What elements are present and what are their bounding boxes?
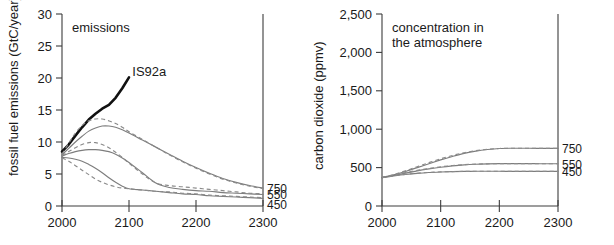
emissions-y-tick-label: 30 [38, 7, 52, 22]
concentration-y-tick-label: 0 [365, 199, 372, 214]
concentration-x-tick-label: 2300 [544, 215, 573, 230]
emissions-series-5 [62, 157, 263, 198]
concentration-x-tick-group: 2000210022002300 [368, 200, 573, 230]
emissions-series-1 [62, 126, 263, 188]
emissions-y-tick-label: 0 [45, 199, 52, 214]
concentration-chart-svg: carbon dioxide (ppmv) 05001,0001,5002,00… [307, 0, 614, 245]
concentration-y-tick-label: 1,500 [339, 83, 372, 98]
concentration-x-tick-label: 2200 [485, 215, 514, 230]
concentration-y-axis-title: carbon dioxide (ppmv) [311, 41, 326, 170]
emissions-chart-svg: fossil fuel emissions (GtC/year) 0510152… [0, 0, 307, 245]
chart-panel-emissions: fossil fuel emissions (GtC/year) 0510152… [0, 0, 307, 245]
concentration-edge-label-450: 450 [562, 165, 582, 179]
chart-panel-concentration: carbon dioxide (ppmv) 05001,0001,5002,00… [307, 0, 614, 245]
emissions-y-axis-title-group: fossil fuel emissions (GtC/year) [6, 0, 21, 176]
emissions-annotation-is92a: IS92a [132, 64, 167, 79]
emissions-y-tick-label: 20 [38, 71, 52, 86]
concentration-x-tick-label: 2100 [426, 215, 455, 230]
emissions-x-tick-label: 2300 [249, 215, 278, 230]
emissions-x-tick-group: 2000210022002300 [48, 200, 278, 230]
concentration-y-tick-label: 1,000 [339, 122, 372, 137]
emissions-edge-label-450: 450 [267, 198, 287, 212]
emissions-series-6 [62, 158, 263, 198]
concentration-y-axis-title-group: carbon dioxide (ppmv) [311, 41, 326, 170]
emissions-y-tick-label: 15 [38, 103, 52, 118]
concentration-y-tick-label: 500 [350, 160, 372, 175]
concentration-y-tick-label: 2,000 [339, 45, 372, 60]
emissions-right-edge-labels: 750550450 [267, 182, 287, 212]
emissions-y-tick-label: 10 [38, 135, 52, 150]
emissions-x-tick-label: 2200 [182, 215, 211, 230]
concentration-y-tick-group: 05001,0001,5002,0002,500 [339, 7, 382, 214]
emissions-x-tick-label: 2100 [115, 215, 144, 230]
concentration-series-group [382, 148, 558, 177]
emissions-panel-caption: emissions [72, 20, 130, 35]
two-panel-figure: fossil fuel emissions (GtC/year) 0510152… [0, 0, 614, 245]
concentration-edge-label-750: 750 [562, 142, 582, 156]
emissions-y-tick-label: 25 [38, 39, 52, 54]
emissions-series-0 [62, 77, 129, 151]
emissions-series-3 [62, 150, 263, 195]
emissions-series-group [62, 77, 263, 198]
emissions-x-tick-label: 2000 [48, 215, 77, 230]
concentration-panel-caption-line2: the atmosphere [392, 35, 482, 50]
emissions-y-axis-title: fossil fuel emissions (GtC/year) [6, 0, 21, 176]
emissions-y-tick-group: 051015202530 [38, 7, 62, 214]
concentration-y-tick-label: 2,500 [339, 7, 372, 22]
concentration-x-tick-label: 2000 [368, 215, 397, 230]
concentration-series-0 [382, 148, 558, 177]
emissions-y-tick-label: 5 [45, 167, 52, 182]
concentration-right-edge-labels: 750550450 [562, 142, 582, 179]
concentration-panel-caption-line1: concentration in [392, 20, 484, 35]
